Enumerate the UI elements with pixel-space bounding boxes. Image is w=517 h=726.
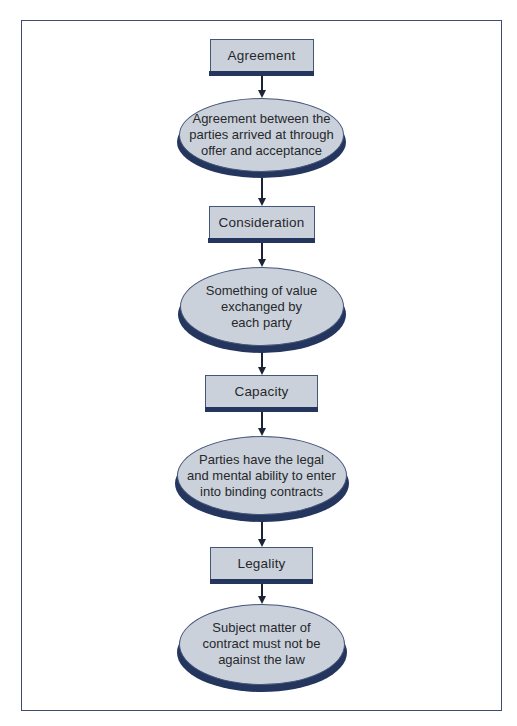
flow-box-legality: Legality: [210, 547, 313, 584]
arrow-head-icon: [258, 428, 266, 436]
flow-ellipse-text: Subject matter of contract must not be a…: [197, 620, 327, 668]
diagram-frame: Agreement Agreement between the parties …: [21, 20, 502, 711]
ellipse-body: Parties have the legal and mental abilit…: [177, 436, 347, 515]
flow-arrow-2: [255, 178, 269, 206]
flow-ellipse-text: Parties have the legal and mental abilit…: [181, 452, 342, 500]
flow-arrow-6: [255, 522, 269, 547]
flow-arrow-4: [255, 353, 269, 375]
arrow-head-icon: [258, 259, 266, 267]
flow-ellipse-capacity: Parties have the legal and mental abilit…: [177, 436, 347, 522]
flow-ellipse-text: Agreement between the parties arrived at…: [183, 111, 340, 159]
flow-arrow-1: [255, 76, 269, 98]
flow-ellipse-agreement: Agreement between the parties arrived at…: [179, 98, 344, 178]
ellipse-body: Something of value exchanged by each par…: [180, 267, 344, 346]
arrow-shaft: [261, 178, 263, 199]
flow-ellipse-consideration: Something of value exchanged by each par…: [180, 267, 344, 353]
arrow-shaft: [261, 243, 263, 260]
flow-box-agreement: Agreement: [210, 39, 314, 76]
flow-box-label: Capacity: [234, 384, 288, 399]
arrow-head-icon: [258, 596, 266, 604]
flow-box-label: Agreement: [228, 48, 296, 63]
ellipse-body: Subject matter of contract must not be a…: [179, 604, 345, 685]
arrow-shaft: [261, 76, 263, 91]
arrow-head-icon: [258, 367, 266, 375]
flow-arrow-7: [255, 584, 269, 604]
arrow-shaft: [261, 522, 263, 540]
arrow-head-icon: [258, 198, 266, 206]
flow-arrow-3: [255, 243, 269, 267]
flow-box-capacity: Capacity: [205, 375, 318, 412]
flow-box-label: Legality: [237, 556, 285, 571]
ellipse-body: Agreement between the parties arrived at…: [179, 98, 344, 172]
arrow-shaft: [261, 412, 263, 429]
arrow-head-icon: [258, 90, 266, 98]
arrow-head-icon: [258, 539, 266, 547]
flow-box-consideration: Consideration: [209, 206, 315, 243]
flowchart-canvas: Agreement Agreement between the parties …: [0, 0, 517, 726]
flow-ellipse-legality: Subject matter of contract must not be a…: [179, 604, 345, 692]
flow-ellipse-text: Something of value exchanged by each par…: [200, 283, 323, 331]
flow-box-label: Consideration: [219, 215, 305, 230]
flow-arrow-5: [255, 412, 269, 436]
arrow-shaft: [261, 353, 263, 368]
